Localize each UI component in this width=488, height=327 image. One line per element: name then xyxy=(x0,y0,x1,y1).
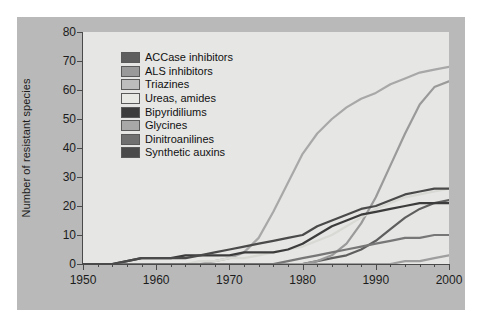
x-minor-tick xyxy=(390,264,391,267)
y-tick-label: 60 xyxy=(63,83,76,97)
x-tick-mark xyxy=(156,264,157,270)
legend-label: ACCase inhibitors xyxy=(145,52,233,63)
x-tick-label: 1980 xyxy=(289,273,316,287)
legend-swatch-icon xyxy=(121,134,140,145)
y-tick-label: 70 xyxy=(63,54,76,68)
x-minor-tick xyxy=(215,264,216,267)
x-tick-mark xyxy=(303,264,304,270)
y-tick-mark xyxy=(77,235,82,236)
legend-item: ALS inhibitors xyxy=(121,65,233,79)
x-minor-tick xyxy=(332,264,333,267)
legend-item: Ureas, amides xyxy=(121,92,233,106)
y-tick-mark xyxy=(77,90,82,91)
x-minor-tick xyxy=(127,264,128,267)
y-tick-mark xyxy=(77,119,82,120)
x-minor-tick xyxy=(273,264,274,267)
y-tick-mark xyxy=(77,206,82,207)
y-tick-mark xyxy=(77,148,82,149)
legend-label: Dinitroanilines xyxy=(145,134,214,145)
legend-swatch-icon xyxy=(121,66,140,77)
y-tick-label: 30 xyxy=(63,170,76,184)
plot-area: Number of resistant species 010203040506… xyxy=(82,32,449,265)
legend-item: Glycines xyxy=(121,119,233,133)
legend-item: Bipyridiliums xyxy=(121,105,233,119)
legend-swatch-icon xyxy=(121,147,140,158)
x-minor-tick xyxy=(434,264,435,267)
x-minor-tick xyxy=(259,264,260,267)
legend-label: Bipyridiliums xyxy=(145,107,207,118)
y-tick-mark xyxy=(77,32,82,33)
legend-swatch-icon xyxy=(121,79,140,90)
x-minor-tick xyxy=(112,264,113,267)
x-minor-tick xyxy=(405,264,406,267)
x-tick-label: 1970 xyxy=(216,273,243,287)
legend-label: ALS inhibitors xyxy=(145,66,213,77)
y-axis-label: Number of resistant species xyxy=(20,32,38,264)
x-minor-tick xyxy=(185,264,186,267)
x-tick-mark xyxy=(229,264,230,270)
x-minor-tick xyxy=(288,264,289,267)
legend-label: Synthetic auxins xyxy=(145,147,225,158)
y-tick-mark xyxy=(77,264,82,265)
x-minor-tick xyxy=(142,264,143,267)
x-minor-tick xyxy=(244,264,245,267)
y-tick-label: 0 xyxy=(69,257,76,271)
x-tick-label: 2000 xyxy=(436,273,463,287)
x-minor-tick xyxy=(347,264,348,267)
x-tick-label: 1960 xyxy=(143,273,170,287)
legend-swatch-icon xyxy=(121,107,140,118)
legend-label: Glycines xyxy=(145,120,187,131)
x-minor-tick xyxy=(317,264,318,267)
y-tick-label: 80 xyxy=(63,25,76,39)
x-tick-label: 1950 xyxy=(70,273,97,287)
legend-label: Triazines xyxy=(145,79,189,90)
x-minor-tick xyxy=(361,264,362,267)
legend-item: Synthetic auxins xyxy=(121,146,233,160)
x-tick-mark xyxy=(376,264,377,270)
y-tick-mark xyxy=(77,177,82,178)
y-tick-label: 10 xyxy=(63,228,76,242)
y-tick-label: 40 xyxy=(63,141,76,155)
y-tick-mark xyxy=(77,61,82,62)
x-tick-label: 1990 xyxy=(362,273,389,287)
x-tick-mark xyxy=(449,264,450,270)
figure-background: Number of resistant species 010203040506… xyxy=(17,17,465,310)
x-minor-tick xyxy=(420,264,421,267)
x-tick-mark xyxy=(83,264,84,270)
legend-swatch-icon xyxy=(121,93,140,104)
legend-label: Ureas, amides xyxy=(145,93,216,104)
x-minor-tick xyxy=(200,264,201,267)
legend-item: Dinitroanilines xyxy=(121,133,233,147)
x-minor-tick xyxy=(98,264,99,267)
legend-item: ACCase inhibitors xyxy=(121,51,233,65)
legend-swatch-icon xyxy=(121,120,140,131)
y-tick-label: 50 xyxy=(63,112,76,126)
legend-swatch-icon xyxy=(121,52,140,63)
legend: ACCase inhibitorsALS inhibitorsTriazines… xyxy=(121,51,233,160)
x-minor-tick xyxy=(171,264,172,267)
legend-item: Triazines xyxy=(121,78,233,92)
y-tick-label: 20 xyxy=(63,199,76,213)
